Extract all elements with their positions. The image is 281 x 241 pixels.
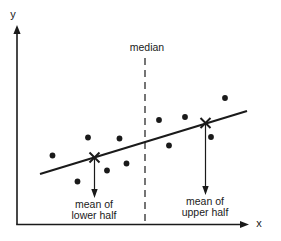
figure-canvas: y x median bbox=[0, 0, 281, 241]
y-axis bbox=[13, 25, 20, 225]
upper-mean-caption-line2: upper half bbox=[182, 206, 229, 218]
statistics-scatter-figure: y x median bbox=[0, 0, 281, 241]
data-point bbox=[50, 153, 56, 159]
x-axis bbox=[16, 221, 249, 228]
data-point bbox=[156, 117, 162, 123]
lower-mean-arrow bbox=[91, 158, 97, 199]
regression-line bbox=[40, 111, 247, 174]
upper-mean-arrow bbox=[202, 123, 208, 195]
y-axis-label: y bbox=[10, 8, 16, 20]
data-point bbox=[75, 179, 81, 185]
x-axis-label: x bbox=[256, 217, 262, 229]
data-point bbox=[85, 135, 91, 141]
median-label: median bbox=[130, 41, 165, 53]
data-point bbox=[124, 161, 130, 167]
data-point bbox=[182, 114, 188, 120]
lower-mean-caption-line2: lower half bbox=[72, 209, 117, 221]
data-point bbox=[208, 134, 214, 140]
data-point bbox=[166, 143, 172, 149]
scatter-points-upper-half bbox=[156, 95, 228, 148]
data-point bbox=[117, 136, 123, 142]
data-point bbox=[222, 95, 228, 101]
data-point bbox=[104, 168, 110, 174]
